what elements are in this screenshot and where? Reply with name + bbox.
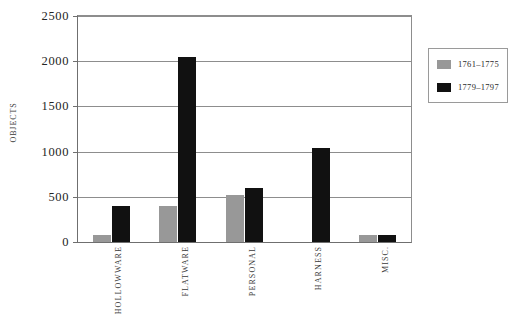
y-axis-title: OBJECTS: [9, 88, 18, 158]
plot-area: 05001000150020002500: [77, 15, 412, 243]
x-axis-category-label: HOLLOWWARE: [114, 246, 123, 314]
bar-chart: OBJECTS 05001000150020002500 HOLLOWWAREF…: [0, 0, 514, 331]
x-axis-category-labels: HOLLOWWAREFLATWAREPERSONALHARNESSMISC.: [77, 244, 412, 330]
bar: [378, 235, 396, 242]
legend-swatch-icon: [437, 60, 451, 69]
bar: [93, 235, 111, 242]
legend-label: 1779–1797: [458, 82, 499, 92]
x-axis-category-label: FLATWARE: [181, 246, 190, 297]
y-axis-tick-label: 1500: [42, 99, 69, 114]
y-axis-tick-label: 0: [62, 235, 69, 250]
x-axis-category-label: HARNESS: [314, 246, 323, 290]
bar: [312, 148, 330, 242]
legend-item[interactable]: 1761–1775: [437, 57, 501, 71]
y-axis-tick: [73, 242, 78, 243]
legend-label: 1761–1775: [458, 59, 499, 69]
y-axis-tick-label: 1000: [42, 144, 69, 159]
bar: [159, 206, 177, 242]
y-axis-tick-label: 2000: [42, 54, 69, 69]
bar: [245, 188, 263, 242]
y-axis-tick-label: 500: [48, 189, 69, 204]
bars-layer: [78, 16, 411, 242]
bar: [226, 195, 244, 242]
x-axis-category-label: PERSONAL: [248, 246, 257, 296]
legend-swatch-icon: [437, 83, 451, 92]
bar: [178, 57, 196, 242]
legend-item[interactable]: 1779–1797: [437, 80, 501, 94]
bar: [112, 206, 130, 242]
x-axis-category-label: MISC.: [381, 246, 390, 273]
bar: [359, 235, 377, 242]
y-axis-tick-label: 2500: [42, 9, 69, 24]
legend: 1761–17751779–1797: [428, 48, 508, 103]
